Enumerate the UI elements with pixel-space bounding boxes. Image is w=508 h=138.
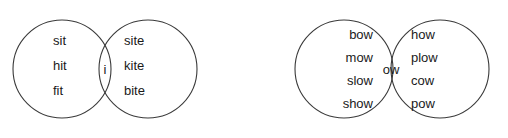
venn-intersection-label-ow: ow [379,63,403,76]
word-item: pow [411,97,435,110]
word-list-long-o: bow mow slow show [311,28,373,120]
word-item: cow [411,74,434,87]
word-item: how [411,28,435,41]
word-item: show [343,97,373,110]
venn-right-circle-ou-sound [391,20,489,118]
venn-diagram-canvas: sit hit fit i site kite bite bow mow slo… [0,0,508,138]
word-item: mow [346,51,373,64]
venn-diagram-ow-sound: bow mow slow show ow how plow cow pow [0,0,508,138]
word-list-ou-sound: how plow cow pow [411,28,438,120]
word-item: slow [347,74,373,87]
word-item: plow [411,51,438,64]
word-item: bow [349,28,373,41]
